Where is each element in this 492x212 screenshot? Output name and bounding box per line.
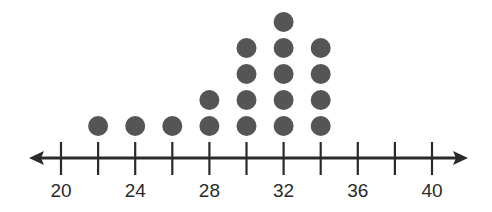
data-dot [237,116,257,136]
data-dot [237,64,257,84]
data-dot [274,38,294,58]
tick-label: 28 [199,180,220,201]
data-dot [311,90,331,110]
dots-layer [88,12,331,136]
data-dot [274,12,294,32]
data-dot [311,64,331,84]
data-dot [125,116,145,136]
tick-labels: 202428323640 [50,180,442,201]
data-dot [237,90,257,110]
tick-label: 40 [421,180,442,201]
dot-plot: 202428323640 [0,0,492,212]
data-dot [274,90,294,110]
tick-label: 32 [273,180,294,201]
data-dot [274,116,294,136]
data-dot [274,64,294,84]
data-dot [162,116,182,136]
number-line [29,151,468,165]
tick-label: 36 [347,180,368,201]
data-dot [199,90,219,110]
data-dot [311,38,331,58]
data-dot [237,38,257,58]
tick-label: 24 [125,180,147,201]
data-dot [88,116,108,136]
tick-label: 20 [50,180,71,201]
data-dot [199,116,219,136]
data-dot [311,116,331,136]
